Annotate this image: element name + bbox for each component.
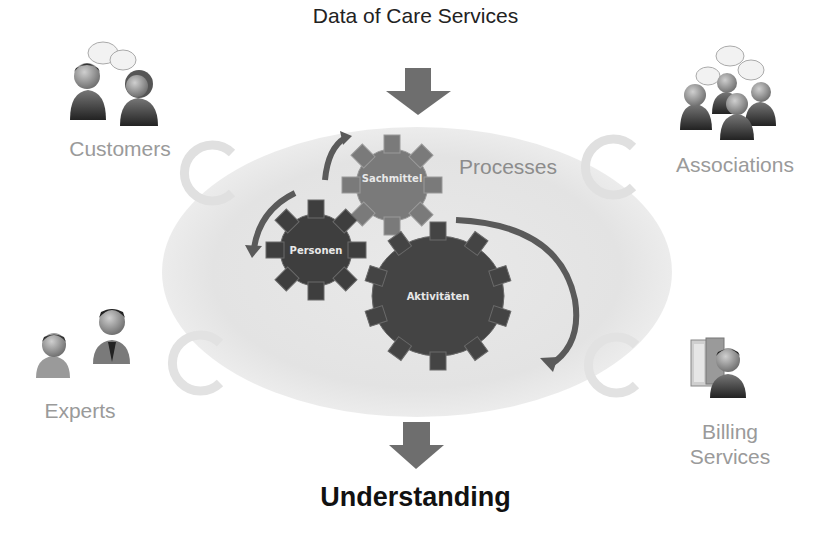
billing-label-line1: Billing [665, 419, 795, 444]
group-people-talking-icon [680, 46, 776, 140]
gear-label-sachmittel: Sachmittel [362, 173, 423, 184]
input-label: Data of Care Services [0, 4, 831, 28]
stakeholder-label-customers: Customers [40, 136, 200, 161]
stakeholder-label-billing-services: Billing Services [665, 419, 795, 469]
processes-label: Processes [459, 155, 557, 179]
billing-label-line2: Services [665, 444, 795, 469]
gear-personen: Personen [266, 200, 366, 300]
two-people-icon [36, 309, 130, 378]
gear-label-aktivitaeten: Aktivitäten [407, 291, 470, 302]
input-arrow-icon [386, 68, 451, 115]
stakeholder-label-associations: Associations [655, 152, 815, 177]
two-people-talking-icon [70, 42, 158, 126]
output-arrow-icon [389, 422, 444, 469]
output-label: Understanding [0, 482, 831, 513]
stakeholder-label-experts: Experts [20, 398, 140, 423]
gear-label-personen: Personen [290, 245, 343, 256]
server-person-icon [691, 338, 746, 398]
